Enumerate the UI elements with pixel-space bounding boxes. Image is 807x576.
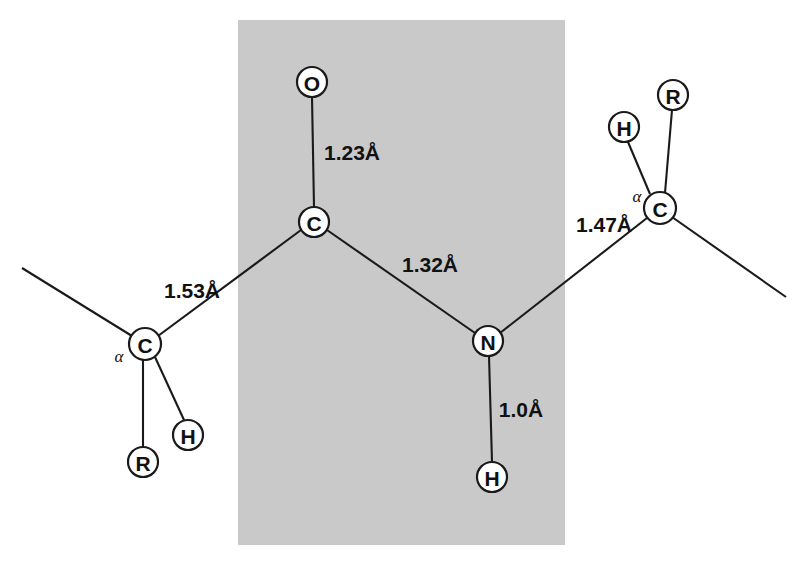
atom-label-o-carbonyl: O [304,72,320,95]
dist-calpha-c-label: 1.53Å [164,279,220,302]
dist-c-n-label: 1.32Å [402,253,458,276]
atom-label-h-amide: H [484,467,499,490]
atom-label-r-right: R [665,85,680,108]
bond-calphaleft-ext [22,268,132,336]
atom-r-right: R [658,80,688,110]
atom-c-alpha-right: C [644,192,676,224]
dist-c-o-label: 1.23Å [324,141,380,164]
atom-h-left: H [173,420,203,450]
atom-o-carbonyl: O [297,67,327,97]
dist-n-calpha-label: 1.47Å [576,213,632,236]
atom-label-r-left: R [135,452,150,475]
atom-label-h-right: H [616,117,631,140]
atom-r-left: R [128,447,158,477]
atom-h-right: H [609,112,639,142]
atom-label-n-amide: N [480,331,495,354]
alpha-left-label: α [115,347,125,366]
atom-label-c-alpha-left: C [137,334,152,357]
atom-n-amide: N [473,326,503,356]
peptide-bond-figure: OCNHCRHCHR αα 1.23Å1.32Å1.53Å1.47Å1.0Å [0,0,807,576]
dist-n-h-label: 1.0Å [499,398,543,421]
atom-c-alpha-left: C [129,328,161,360]
diagram-canvas: OCNHCRHCHR αα 1.23Å1.32Å1.53Å1.47Å1.0Å [0,0,807,576]
bond-calphaleft-h [155,357,184,420]
atom-c-carbonyl: C [299,207,329,237]
bond-calpharight-ext [672,217,786,297]
atom-label-c-alpha-right: C [652,198,667,221]
alpha-right-label: α [633,187,643,206]
atom-label-h-left: H [180,425,195,448]
bond-calpharight-r [665,110,672,193]
atom-label-c-carbonyl: C [306,212,321,235]
atom-h-amide: H [477,462,507,492]
